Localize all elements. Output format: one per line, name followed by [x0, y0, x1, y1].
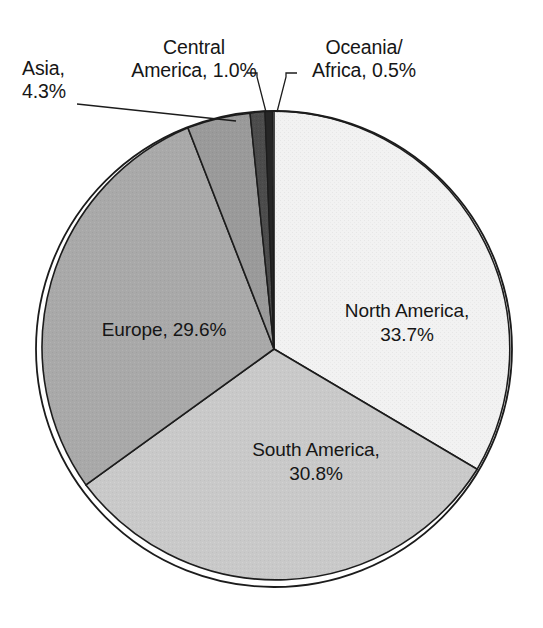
slice-label-north-america-line1: North America, — [345, 300, 469, 321]
slice-label-south-america: South America,30.8% — [228, 438, 404, 486]
slice-label-europe: Europe, 29.6% — [84, 318, 244, 342]
slice-label-north-america: North America,33.7% — [322, 299, 492, 347]
slice-label-oceania-africa-line2: Africa, 0.5% — [312, 59, 416, 81]
slice-label-central-america-line2: America, 1.0% — [131, 59, 257, 81]
slice-label-oceania-africa-line1: Oceania/ — [325, 36, 402, 58]
slice-label-europe-line1: Europe, 29.6% — [102, 319, 226, 340]
leader-line-asia — [77, 104, 236, 121]
slice-label-asia-line1: Asia, — [22, 57, 65, 79]
slice-label-asia: Asia,4.3% — [22, 57, 66, 103]
slice-label-central-america-line1: Central — [163, 36, 225, 58]
slice-label-north-america-line2: 33.7% — [380, 324, 433, 345]
slice-label-central-america: CentralAmerica, 1.0% — [119, 36, 269, 82]
slice-label-south-america-line1: South America, — [252, 439, 379, 460]
slice-label-south-america-line2: 30.8% — [289, 463, 342, 484]
slice-label-oceania-africa: Oceania/Africa, 0.5% — [290, 36, 438, 82]
pie-chart-figure: Asia,4.3% CentralAmerica, 1.0% Oceania/A… — [0, 0, 543, 628]
slice-label-asia-line2: 4.3% — [22, 80, 66, 102]
